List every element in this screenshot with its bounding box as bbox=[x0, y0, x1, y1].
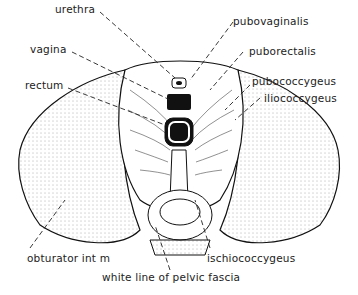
coccyx bbox=[150, 240, 210, 255]
vagina-opening bbox=[167, 94, 191, 110]
label-white-line-of-pelvic-fascia: white line of pelvic fascia bbox=[102, 271, 240, 283]
label-rectum: rectum bbox=[25, 79, 64, 91]
label-pubococcygeus: pubococcygeus bbox=[252, 75, 336, 87]
label-urethra: urethra bbox=[55, 3, 95, 15]
label-ischiococcygeus: ischiococcygeus bbox=[207, 252, 295, 264]
label-vagina: vagina bbox=[30, 43, 67, 55]
label-puborectalis: puborectalis bbox=[249, 45, 316, 57]
label-obturator-int-m: obturator int m bbox=[27, 252, 110, 264]
label-iliococcygeus: iliococcygeus bbox=[264, 92, 337, 104]
label-pubovaginalis: pubovaginalis bbox=[233, 15, 309, 27]
sacrum bbox=[148, 190, 212, 240]
